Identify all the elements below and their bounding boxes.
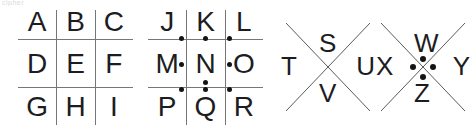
x-dotted-shape: W X Y Z [380, 22, 466, 112]
grid-dotted-lines: J K L M N [148, 10, 263, 125]
cipher-dot [227, 62, 232, 67]
cipher-dot [227, 36, 232, 41]
cipher-dot [420, 74, 426, 80]
cell-o: O [225, 42, 263, 86]
grid-plain: A B C D E F G H I [0, 0, 150, 133]
cipher-dot [410, 64, 416, 70]
cell-b: B [56, 2, 94, 42]
letter-glyph: L [236, 8, 252, 36]
grid-dotted-cells: J K L M N [148, 2, 263, 127]
cipher-dot [179, 36, 184, 41]
cell-l: L [225, 2, 263, 42]
cell-c: C [95, 2, 133, 42]
cell-q: Q [186, 86, 224, 127]
cipher-dot [203, 80, 208, 85]
letter-glyph: C [104, 8, 124, 36]
cell-p: P [148, 86, 186, 127]
letter-glyph: T [281, 53, 297, 79]
letter-glyph: Y [453, 53, 470, 79]
cell-n: N [186, 42, 224, 86]
letter-glyph: I [110, 93, 118, 121]
letter-glyph: P [158, 93, 177, 121]
letter-glyph: H [65, 93, 85, 121]
letter-glyph: G [26, 93, 48, 121]
cell-j: J [148, 2, 186, 42]
letter-glyph: D [27, 50, 47, 78]
cipher-dot [430, 64, 436, 70]
grid-dotted: J K L M N [130, 0, 280, 133]
cipher-dot [203, 87, 208, 92]
letter-glyph: N [195, 50, 215, 78]
pigpen-cipher-key-figure: cipher A B C D E F G H I [0, 0, 473, 133]
letter-glyph: M [156, 50, 179, 78]
cell-f: F [95, 42, 133, 86]
letter-glyph: S [319, 30, 336, 56]
letter-glyph: O [233, 50, 255, 78]
cipher-dot [203, 36, 208, 41]
letter-glyph: X [376, 53, 393, 79]
letter-glyph: V [319, 80, 336, 106]
letter-glyph: K [196, 8, 215, 36]
letter-glyph: Q [195, 93, 217, 121]
grid-plain-lines: A B C D E F G H I [18, 10, 133, 125]
cipher-dot [227, 87, 232, 92]
grid-plain-cells: A B C D E F G H I [18, 2, 133, 127]
letter-glyph: E [66, 50, 85, 78]
cell-m: M [148, 42, 186, 86]
cell-r: R [225, 86, 263, 127]
cell-a: A [18, 2, 56, 42]
cell-e: E [56, 42, 94, 86]
x-plain: S T U V [278, 0, 375, 133]
letter-glyph: B [66, 8, 85, 36]
cell-i: I [95, 86, 133, 127]
cell-d: D [18, 42, 56, 86]
x-plain-shape: S T U V [285, 22, 371, 112]
letter-glyph: F [105, 50, 122, 78]
letter-glyph: A [28, 8, 47, 36]
letter-glyph: R [234, 93, 254, 121]
cell-k: K [186, 2, 224, 42]
letter-glyph: J [160, 8, 174, 36]
cipher-dot [420, 56, 426, 62]
cell-h: H [56, 86, 94, 127]
x-dotted: W X Y Z [373, 0, 473, 133]
cell-g: G [18, 86, 56, 127]
cipher-dot [179, 62, 184, 67]
cipher-dot [179, 87, 184, 92]
letter-glyph: Z [414, 80, 430, 106]
letter-glyph: W [414, 30, 439, 56]
